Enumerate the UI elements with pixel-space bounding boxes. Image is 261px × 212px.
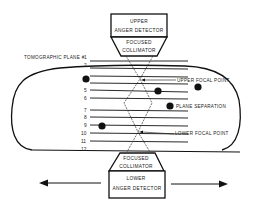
lower-collimator-label-1: FOCUSED	[123, 156, 149, 161]
plane-number-11: 11	[81, 139, 86, 144]
plane-number-2: 2	[84, 63, 87, 68]
upper-collimator-label-1: FOCUSED	[126, 40, 152, 45]
upper-collimator-label-2: COLLIMATOR	[122, 48, 156, 53]
plane-label: TOMOGRAPHIC PLANE #	[24, 55, 85, 60]
upper-focal-arrowhead	[141, 79, 145, 82]
lower-detector-label-1: LOWER	[126, 176, 145, 181]
plane-number-7: 7	[84, 108, 87, 113]
upper-focal-label: UPPER FOCAL POINT	[177, 78, 230, 83]
plane-number-6: 6	[84, 96, 87, 101]
lower-collimator-label-2: COLLIMATOR	[119, 164, 153, 169]
lower-focal-label: LOWER FOCAL POINT	[175, 131, 229, 136]
plane-number-10: 10	[81, 131, 87, 136]
plane-number-8: 8	[84, 115, 87, 120]
upper-detector-box	[111, 14, 167, 37]
tomography-diagram: UPPER ANGER DETECTOR FOCUSED COLLIMATOR …	[0, 0, 261, 212]
tomographic-planes	[90, 61, 188, 142]
collimator-focus-lines	[124, 56, 153, 152]
lower-focal-arrowhead	[139, 131, 143, 134]
left-arrowhead-icon	[39, 180, 48, 187]
right-arrowhead-icon	[219, 181, 228, 188]
table-line	[32, 150, 240, 152]
plane-separation-label: PLANE SEPARATION	[176, 104, 226, 109]
plane-number-5: 5	[84, 88, 87, 93]
plane-number-3: 3	[84, 70, 87, 75]
upper-detector-label-2: ANGER DETECTOR	[115, 28, 164, 33]
plane-number-1: 1	[84, 55, 87, 60]
plane-number-9: 9	[84, 123, 87, 128]
upper-detector-label-1: UPPER	[130, 19, 148, 24]
plane-number-12: 12	[81, 147, 87, 152]
lower-detector-label-2: ANGER DETECTOR	[113, 186, 162, 191]
